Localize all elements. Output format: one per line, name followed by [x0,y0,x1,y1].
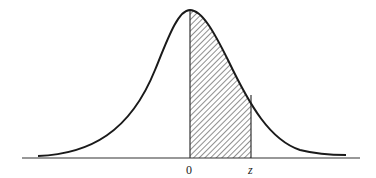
shaded-area [38,10,346,158]
normal-curve-diagram: 0 z [0,0,376,178]
origin-label: 0 [186,163,192,177]
z-label: z [247,163,253,177]
